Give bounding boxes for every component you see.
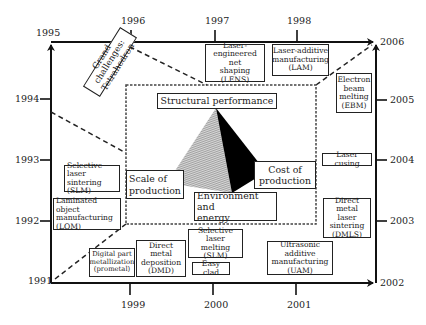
year-label-1995: 1995 — [36, 28, 60, 38]
tech-box-laser-cusing: Laser cusing — [322, 153, 372, 166]
vertex-structural-performance: Structural performance — [157, 93, 277, 109]
year-label-2001: 2001 — [287, 300, 311, 310]
vertex-environment-and-energy: Environment and energy — [194, 192, 277, 221]
year-label-2003: 2003 — [390, 216, 414, 226]
year-label-2005: 2005 — [390, 95, 414, 105]
year-label-1991: 1991 — [28, 276, 52, 286]
tech-box-lam: Laser-additive manufacturing (LAM) — [272, 44, 329, 76]
year-label-1999: 1999 — [121, 300, 145, 310]
tech-box-sls: Selective laser sintering (SLM) — [64, 165, 120, 192]
tech-box-slm-melting: Selective laser melting (SLM) — [188, 229, 243, 258]
year-label-1992: 1992 — [15, 216, 39, 226]
year-label-2000: 2000 — [204, 300, 228, 310]
tech-box-uam: Ultrasonic additive manufacturing (UAM) — [267, 241, 333, 275]
tech-box-prometal: Digital part metallization (prometal) — [89, 248, 135, 277]
tech-box-ebm: Electron beam melting (EBM) — [336, 73, 372, 113]
timeline-diagram: 1995 1994 1993 1992 1991 1996 1997 1998 … — [0, 0, 426, 325]
year-label-1998: 1998 — [287, 16, 311, 26]
year-label-1993: 1993 — [15, 155, 39, 165]
tech-box-lens: Laser- engineered net shaping (LENS) — [205, 44, 265, 82]
tech-box-dmd: Direct metal deposition (DMD) — [136, 240, 186, 277]
tech-box-easy-clad: Easy clad — [192, 262, 230, 275]
year-label-2002: 2002 — [380, 278, 404, 288]
tech-box-dmls: Direct metal laser sintering (DMLS) — [323, 198, 371, 238]
year-label-1997: 1997 — [205, 16, 229, 26]
year-label-2006: 2006 — [380, 37, 404, 47]
year-label-1996: 1996 — [121, 16, 145, 26]
tech-box-lom: Laminated object manufacturing (LOM) — [53, 198, 121, 230]
year-label-2004: 2004 — [390, 155, 414, 165]
vertex-scale-of-production: Scale of production — [126, 170, 184, 199]
year-label-1994: 1994 — [15, 94, 39, 104]
vertex-cost-of-production: Cost of production — [254, 161, 316, 189]
